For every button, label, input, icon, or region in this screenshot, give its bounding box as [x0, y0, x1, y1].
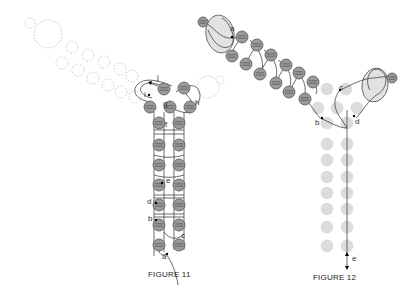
- ghost-bead: [82, 49, 94, 61]
- step-label-f: f: [165, 120, 168, 129]
- bead: [254, 68, 266, 80]
- beadwork-diagram: jighfedbca: [0, 0, 417, 297]
- bead: [153, 159, 165, 171]
- step-label-d: d: [355, 117, 359, 126]
- step-label-b: b: [315, 118, 320, 127]
- bead: [307, 76, 319, 88]
- step-label-c: c: [181, 231, 185, 240]
- bead: [173, 239, 185, 251]
- figure-11-caption: FIGURE 11: [148, 270, 191, 279]
- faded-bead: [312, 102, 324, 114]
- bead: [240, 58, 252, 70]
- faded-bead: [321, 154, 333, 166]
- figure-12: acbde: [198, 13, 397, 270]
- step-label-i: i: [144, 90, 146, 99]
- step-label-h: h: [195, 98, 199, 107]
- bead: [158, 83, 170, 95]
- step-label-a: a: [230, 24, 235, 33]
- bead: [236, 31, 248, 43]
- bead: [173, 139, 185, 151]
- step-label-e: e: [352, 254, 357, 263]
- faded-bead: [321, 203, 333, 215]
- bead: [173, 159, 185, 171]
- bead: [173, 219, 185, 231]
- bead: [226, 50, 238, 62]
- bead: [387, 73, 397, 83]
- bead: [144, 101, 156, 113]
- faded-bead: [321, 187, 333, 199]
- ghost-bead: [216, 76, 224, 84]
- bead: [283, 86, 295, 98]
- bead: [153, 239, 165, 251]
- bead: [293, 67, 305, 79]
- bead: [280, 59, 292, 71]
- step-label-e: e: [166, 176, 171, 185]
- step-label-b: b: [148, 214, 153, 223]
- step-label-a: a: [162, 252, 167, 261]
- bead: [173, 179, 185, 191]
- ghost-bead: [87, 72, 99, 84]
- ghost-bead: [98, 56, 110, 68]
- figure-12-caption: FIGURE 12: [313, 273, 356, 282]
- ghost-bead: [56, 57, 68, 69]
- ghost-bead: [66, 41, 78, 53]
- bead: [178, 82, 190, 94]
- faded-beads: [312, 83, 363, 252]
- bead: [153, 219, 165, 231]
- ghost-bead: [72, 64, 84, 76]
- faded-bead: [321, 138, 333, 150]
- bead: [265, 49, 277, 61]
- beads: [144, 82, 196, 251]
- bead: [153, 179, 165, 191]
- faded-bead: [321, 83, 333, 95]
- bead: [153, 117, 165, 129]
- step-label-d: d: [147, 197, 151, 206]
- bead: [153, 139, 165, 151]
- step-label-j: j: [156, 73, 159, 82]
- bead: [173, 117, 185, 129]
- bead: [173, 199, 185, 211]
- ghost-bead: [126, 70, 138, 82]
- ghost-bead: [115, 86, 127, 98]
- bead: [270, 77, 282, 89]
- bead: [251, 39, 263, 51]
- ghost-bead: [34, 20, 62, 48]
- ghost-bead: [25, 18, 35, 28]
- ghost-bead: [114, 63, 126, 75]
- faded-bead: [321, 171, 333, 183]
- faded-bead: [321, 221, 333, 233]
- ghost-beads: [25, 18, 224, 103]
- bead: [198, 17, 208, 27]
- ghost-bead: [102, 79, 114, 91]
- figure-11: jighfedbca: [25, 18, 224, 285]
- bead: [299, 93, 311, 105]
- large-bead: [359, 66, 391, 104]
- bead: [153, 199, 165, 211]
- faded-bead: [321, 240, 333, 252]
- step-label-c: c: [339, 83, 343, 92]
- step-label-g: g: [163, 99, 167, 108]
